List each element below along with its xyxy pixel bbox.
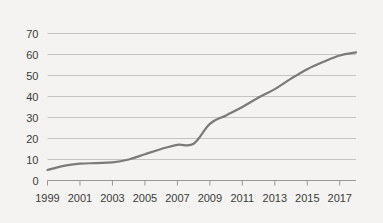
y-tick-label: 20 <box>26 133 38 145</box>
x-tick-label: 2003 <box>100 192 124 204</box>
chart-canvas: 010203040506070 199920012003200520072009… <box>0 0 383 223</box>
x-tick-label: 1999 <box>35 192 59 204</box>
x-tick-label: 2001 <box>68 192 92 204</box>
x-tick-label: 2007 <box>165 192 189 204</box>
y-tick-label: 10 <box>26 154 38 166</box>
y-tick-label: 0 <box>32 175 38 187</box>
y-tick-label: 60 <box>26 49 38 61</box>
y-tick-label: 30 <box>26 112 38 124</box>
x-tick-label: 2009 <box>198 192 222 204</box>
x-tick-label: 2013 <box>263 192 287 204</box>
x-tick-label: 2015 <box>295 192 319 204</box>
y-tick-label: 50 <box>26 70 38 82</box>
y-tick-label: 70 <box>26 28 38 40</box>
x-tick-label: 2017 <box>328 192 352 204</box>
x-tick-label: 2005 <box>133 192 157 204</box>
y-tick-label: 40 <box>26 91 38 103</box>
line-chart: 010203040506070 199920012003200520072009… <box>0 0 383 223</box>
x-tick-label: 2011 <box>231 192 255 204</box>
